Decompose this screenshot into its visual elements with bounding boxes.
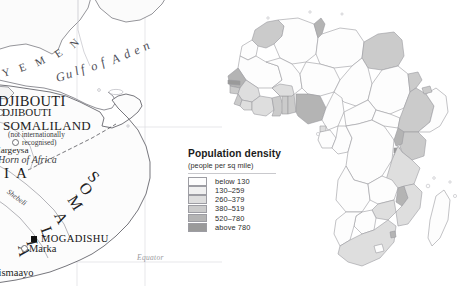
- legend-label-0: below 130: [215, 177, 250, 186]
- legend-label-3: 380–519: [215, 204, 244, 213]
- legend-divider: [188, 173, 276, 174]
- legend-swatch-2: [188, 195, 207, 204]
- legend-swatch-1: [188, 186, 207, 195]
- legend-subtitle: (people per sq mile): [188, 161, 288, 170]
- legend-label-4: 520–780: [215, 214, 244, 223]
- marker-mogadishu: [31, 236, 37, 242]
- legend-row: below 130: [188, 177, 288, 186]
- marker-marka: [21, 245, 28, 252]
- legend: Population density (people per sq mile) …: [188, 148, 288, 232]
- legend-row: 260–379: [188, 195, 288, 204]
- marker-hargeysa: [12, 139, 19, 146]
- legend-label-1: 130–259: [215, 186, 244, 195]
- africa-population-density-map: [222, 0, 461, 286]
- legend-label-5: above 780: [215, 223, 250, 232]
- legend-row: 380–519: [188, 204, 288, 213]
- legend-swatch-3: [188, 205, 207, 214]
- legend-swatch-4: [188, 214, 207, 223]
- legend-swatch-5: [188, 223, 207, 232]
- legend-title: Population density: [188, 148, 288, 160]
- horn-of-africa-detail-map: [0, 0, 230, 286]
- legend-label-2: 260–379: [215, 195, 244, 204]
- legend-row: above 780: [188, 223, 288, 232]
- legend-row: 130–259: [188, 186, 288, 195]
- map-page: Y E M E N G u l f o f A d e n DJIBOUTI D…: [0, 0, 461, 286]
- legend-swatch-0: [188, 177, 207, 186]
- legend-row: 520–780: [188, 213, 288, 222]
